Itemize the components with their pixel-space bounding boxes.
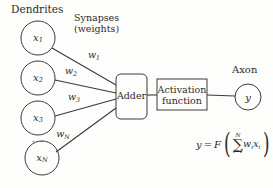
axon-label: Axon: [232, 64, 257, 75]
adder-block-label: Adder: [117, 90, 146, 101]
output-node-label-y: y: [245, 92, 251, 103]
weight-label-w2: w2: [65, 65, 77, 77]
weight-base-wN: w: [56, 128, 64, 139]
input-node-sub-x3: 3: [39, 116, 43, 124]
input-node-label-xN: xN: [36, 152, 47, 165]
axon-line: [207, 95, 235, 96]
weight-label-w1: w1: [88, 49, 100, 61]
formula-lhs: y: [196, 139, 202, 150]
synapse-line-2: [55, 80, 116, 93]
weight-base-w2: w: [65, 65, 73, 76]
input-node-sub-x2: 2: [39, 76, 43, 84]
input-ellipsis: ...: [32, 133, 45, 144]
output-formula: y = F ( N ∑ i=1 wixi ): [196, 133, 272, 155]
activation-label-line2: function: [162, 95, 202, 106]
weight-base-w3: w: [68, 91, 76, 102]
activation-label-line1: Activation: [158, 83, 207, 94]
synapses-label-line2: (weights): [74, 24, 119, 35]
input-node-label-x3: x3: [33, 112, 43, 125]
weight-sub-w2: 2: [73, 70, 77, 77]
weight-sub-w1: 1: [96, 54, 100, 61]
formula-paren-open: (: [224, 133, 231, 155]
neuron-diagram-figure: Dendrites Synapses (weights) Axon x1 x2 …: [0, 0, 273, 188]
formula-function-symbol: F: [214, 139, 221, 150]
weight-sub-wN: N: [64, 133, 69, 140]
weight-sub-w3: 3: [76, 96, 80, 103]
formula-term-x-sub: i: [258, 144, 260, 150]
synapse-line-3: [55, 99, 116, 116]
weight-base-w1: w: [88, 49, 96, 60]
dendrites-label: Dendrites: [11, 4, 63, 16]
formula-equals: =: [204, 139, 212, 150]
input-node-label-x1: x1: [33, 32, 43, 45]
weight-label-wN: wN: [56, 128, 70, 140]
formula-term-w: w: [243, 138, 251, 149]
synapses-label-line1: Synapses: [74, 12, 119, 23]
formula-summation: N ∑ i=1: [233, 133, 243, 154]
synapses-label: Synapses (weights): [74, 13, 119, 34]
activation-function-block-label: Activation function: [158, 83, 207, 105]
input-node-label-x2: x2: [33, 72, 43, 85]
weight-label-w3: w3: [68, 91, 80, 103]
input-node-sub-xN: N: [42, 156, 48, 164]
input-node-sub-x1: 1: [39, 36, 43, 44]
formula-paren-close: ): [263, 133, 270, 155]
formula-sum-lower-limit: i=1: [233, 149, 243, 155]
synapse-line-1: [52, 48, 116, 85]
formula-terms: wixi: [243, 138, 260, 150]
